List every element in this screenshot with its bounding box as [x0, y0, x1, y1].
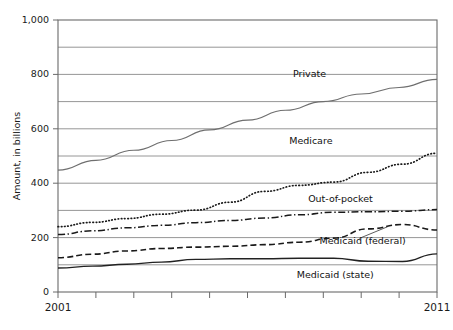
- x-tick-label: 2001: [45, 301, 72, 313]
- annotations-group: PrivateMedicareOut-of-pocketMedicaid (fe…: [289, 68, 406, 280]
- y-tick-label: 0: [43, 286, 49, 297]
- series-label-medicare: Medicare: [289, 135, 332, 146]
- y-axis-labels: 02004006008001,000: [22, 14, 49, 297]
- y-tick-label: 400: [31, 177, 49, 188]
- series-label-private: Private: [293, 68, 326, 79]
- x-axis-ticks: [58, 292, 437, 298]
- gridlines-group: [58, 47, 437, 265]
- series-line-medicare: [58, 153, 437, 226]
- series-line-out-of-pocket: [58, 210, 437, 235]
- y-tick-label: 600: [31, 123, 49, 134]
- line-chart: 02004006008001,000 20012011 Amount, in b…: [0, 0, 453, 330]
- series-label-medicaid-state: Medicaid (state): [297, 269, 374, 280]
- series-label-out-of-pocket: Out-of-pocket: [308, 193, 373, 204]
- x-axis-labels: 20012011: [45, 301, 451, 313]
- chart-svg: 02004006008001,000 20012011 Amount, in b…: [0, 0, 453, 330]
- series-label-medicaid-federal: Medicaid (federal): [320, 235, 406, 246]
- x-tick-label: 2011: [424, 301, 451, 313]
- y-axis-title: Amount, in billions: [11, 112, 22, 200]
- series-line-medicaid-state: [58, 254, 437, 268]
- y-tick-label: 200: [31, 232, 49, 243]
- y-tick-label: 800: [31, 68, 49, 79]
- y-axis-ticks: [53, 20, 58, 292]
- series-line-private: [58, 79, 437, 170]
- y-tick-label: 1,000: [22, 14, 49, 25]
